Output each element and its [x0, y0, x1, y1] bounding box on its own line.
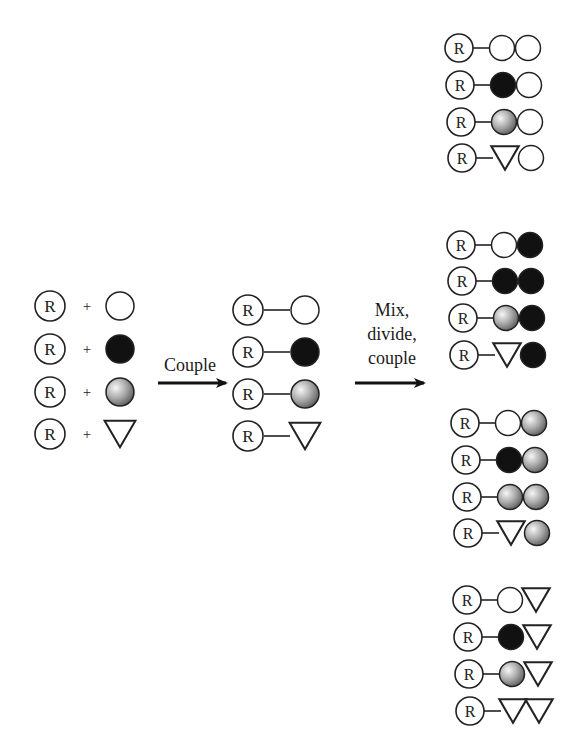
product-group-1: RRRR — [445, 34, 544, 172]
resin-label: R — [460, 415, 471, 432]
resin-bead-icon: R — [453, 483, 481, 511]
product-row: R — [454, 623, 551, 651]
product-group-2: RRRR — [447, 231, 546, 369]
resin-label: R — [44, 297, 56, 316]
reactant-row: R+ — [35, 377, 134, 407]
resin-label: R — [459, 347, 470, 364]
white-monomer-icon — [492, 233, 517, 258]
gray-monomer-icon — [522, 411, 547, 436]
resin-bead-icon: R — [448, 267, 476, 295]
resin-label: R — [242, 427, 254, 446]
gray-monomer-icon — [525, 521, 550, 546]
products-column: RRRRRRRRRRRRRRRR — [445, 34, 553, 725]
white-monomer-icon — [498, 588, 523, 613]
product-group-3: RRRR — [451, 409, 550, 547]
resin-bead-icon: R — [447, 231, 475, 259]
intermediate-row: R — [233, 295, 319, 325]
white-monomer-icon — [490, 36, 515, 61]
black-monomer-icon — [291, 338, 319, 366]
resin-bead-icon: R — [456, 697, 484, 725]
triangle-monomer-icon — [493, 343, 521, 367]
product-row: R — [454, 519, 550, 547]
product-row: R — [448, 144, 544, 172]
resin-bead-icon: R — [451, 409, 479, 437]
gray-monomer-icon — [500, 662, 525, 687]
resin-label: R — [463, 525, 474, 542]
mix-label-line: Mix, — [352, 298, 432, 322]
white-monomer-icon — [106, 292, 134, 320]
white-monomer-icon — [516, 36, 541, 61]
resin-bead-icon: R — [454, 623, 482, 651]
black-monomer-icon — [497, 448, 522, 473]
resin-bead-icon: R — [452, 446, 480, 474]
resin-bead-icon: R — [455, 660, 483, 688]
resin-label: R — [455, 77, 466, 94]
triangle-monomer-icon — [524, 662, 552, 686]
resin-label: R — [242, 343, 254, 362]
black-monomer-icon — [520, 306, 545, 331]
intermediates-column: RRRR — [233, 295, 320, 451]
resin-label: R — [457, 273, 468, 290]
resin-label: R — [463, 629, 474, 646]
reactants-column: R+R+R+R+ — [35, 291, 135, 449]
product-row: R — [449, 304, 545, 332]
triangle-monomer-icon — [523, 625, 551, 649]
resin-label: R — [454, 40, 465, 57]
resin-bead-icon: R — [447, 108, 475, 136]
plus-sign: + — [83, 426, 91, 442]
resin-label: R — [456, 237, 467, 254]
white-monomer-icon — [496, 411, 521, 436]
black-monomer-icon — [499, 625, 524, 650]
black-monomer-icon — [519, 269, 544, 294]
intermediate-row: R — [233, 337, 319, 367]
product-row: R — [445, 34, 541, 62]
product-row: R — [447, 108, 543, 136]
triangle-monomer-icon — [105, 421, 136, 448]
resin-label: R — [44, 383, 56, 402]
product-group-4: RRRR — [453, 586, 553, 725]
white-monomer-icon — [517, 73, 542, 98]
product-row: R — [452, 446, 548, 474]
resin-label: R — [44, 340, 56, 359]
resin-bead-icon: R — [233, 337, 263, 367]
resin-label: R — [462, 592, 473, 609]
resin-bead-icon: R — [35, 291, 65, 321]
resin-label: R — [242, 301, 254, 320]
resin-bead-icon: R — [233, 421, 263, 451]
triangle-monomer-icon — [525, 699, 553, 723]
white-monomer-icon — [519, 146, 544, 171]
gray-monomer-icon — [523, 448, 548, 473]
resin-label: R — [457, 150, 468, 167]
resin-bead-icon: R — [449, 304, 477, 332]
resin-label: R — [461, 452, 472, 469]
resin-bead-icon: R — [450, 341, 478, 369]
gray-monomer-icon — [291, 380, 319, 408]
resin-label: R — [458, 310, 469, 327]
plus-sign: + — [83, 298, 91, 314]
product-row: R — [456, 697, 553, 725]
reactant-row: R+ — [35, 291, 134, 321]
split-pool-synthesis-diagram: R+R+R+R+ RRRR RRRRRRRRRRRRRRRR — [0, 0, 582, 751]
black-monomer-icon — [521, 343, 546, 368]
black-monomer-icon — [518, 233, 543, 258]
resin-bead-icon: R — [233, 295, 263, 325]
couple-label-line: couple — [352, 346, 432, 370]
product-row: R — [455, 660, 552, 688]
resin-label: R — [456, 114, 467, 131]
resin-bead-icon: R — [35, 334, 65, 364]
resin-bead-icon: R — [453, 586, 481, 614]
product-row: R — [453, 586, 550, 614]
reactant-row: R+ — [35, 334, 134, 364]
mix-divide-couple-step-label: Mix, divide, couple — [352, 298, 432, 370]
gray-monomer-icon — [494, 306, 519, 331]
resin-label: R — [465, 703, 476, 720]
black-monomer-icon — [491, 73, 516, 98]
resin-label: R — [462, 489, 473, 506]
resin-bead-icon: R — [454, 519, 482, 547]
divide-label-line: divide, — [352, 322, 432, 346]
resin-bead-icon: R — [448, 144, 476, 172]
triangle-monomer-icon — [522, 588, 550, 612]
product-row: R — [453, 483, 549, 511]
white-monomer-icon — [291, 296, 319, 324]
resin-bead-icon: R — [233, 379, 263, 409]
